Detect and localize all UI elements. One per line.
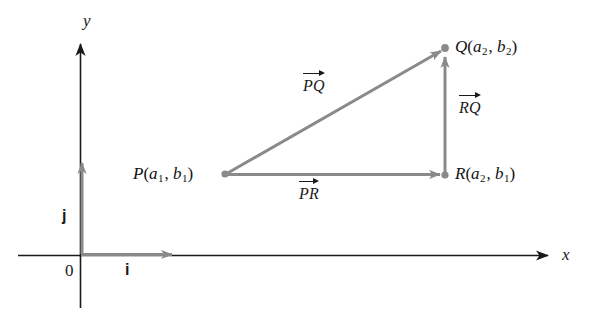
vector-diagram: y x 0 i j P(a1, b1) Q(a2, b2) R(a2, b1) … (0, 0, 594, 325)
point-r-x: a (471, 164, 480, 183)
point-r-close-paren: ) (510, 164, 516, 183)
origin-label: 0 (65, 262, 74, 279)
x-axis-label: x (562, 246, 570, 263)
vector-rq-overbar-arrow-icon (459, 92, 481, 99)
vector-rq-text: RQ (459, 100, 481, 116)
vector-label-rq: RQ (459, 92, 481, 116)
vector-label-pq: PQ (303, 70, 325, 94)
unit-vector-i-label: i (125, 262, 129, 278)
y-axis-label: y (83, 12, 91, 29)
vertex-dot-p (221, 170, 228, 177)
point-p-x-sub: 1 (158, 172, 164, 184)
point-label-p: P(a1, b1) (133, 165, 193, 184)
vertex-dot-q (441, 44, 449, 52)
unit-vector-j-label: j (62, 208, 66, 224)
point-p-x: a (149, 164, 158, 183)
point-p-comma: , (164, 164, 174, 183)
vector-pq-overbar-arrow-icon (303, 70, 325, 77)
vector-pr-text: PR (299, 186, 319, 202)
point-r-x-sub: 2 (480, 172, 486, 184)
point-label-r: R(a2, b1) (455, 165, 515, 184)
vectors-group (226, 51, 445, 175)
vector-label-pr: PR (299, 178, 319, 202)
point-q-comma: , (487, 37, 497, 56)
point-r-y: b (495, 164, 504, 183)
vertex-dot-r (441, 171, 448, 178)
point-p-y: b (173, 164, 182, 183)
vector-pr-overbar-arrow-icon (299, 178, 319, 185)
point-p-close-paren: ) (188, 164, 194, 183)
point-p-name: P (133, 164, 143, 183)
point-r-comma: , (486, 164, 496, 183)
point-q-name: Q (455, 37, 467, 56)
point-label-q: Q(a2, b2) (455, 38, 517, 57)
point-r-name: R (455, 164, 465, 183)
vector-pq-text: PQ (303, 78, 325, 94)
vector-pq-arrow (226, 51, 441, 174)
point-q-close-paren: ) (511, 37, 517, 56)
